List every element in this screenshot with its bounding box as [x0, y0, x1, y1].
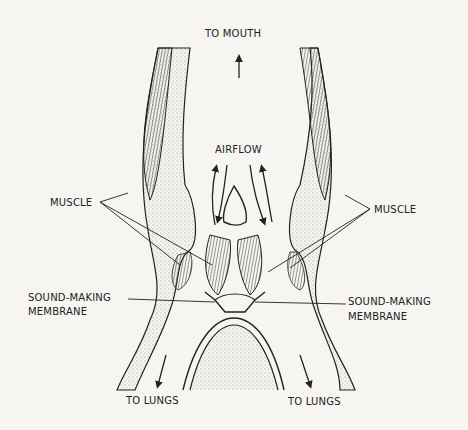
leader-lines	[100, 193, 370, 304]
airflow-down-right	[250, 165, 264, 222]
label-lungs-right: TO LUNGS	[288, 395, 341, 408]
to-lungs-arrow-right	[300, 355, 310, 385]
label-membrane-left-line1: SOUND-MAKING	[28, 291, 111, 304]
label-membrane-right-line2: MEMBRANE	[348, 310, 407, 323]
inner-muscle-right	[238, 235, 262, 295]
label-membrane-left-line2: MEMBRANE	[28, 305, 87, 318]
syrinx-center	[183, 186, 284, 390]
label-airflow: AIRFLOW	[215, 143, 262, 156]
left-trachea-wall	[117, 48, 195, 390]
label-membrane-right-line1: SOUND-MAKING	[348, 295, 431, 308]
airflow-up-right	[262, 168, 272, 222]
inner-muscle-left	[206, 235, 231, 295]
label-lungs-left: TO LUNGS	[126, 394, 179, 407]
to-lungs-arrow-left	[158, 355, 166, 385]
airflow-down-left	[218, 165, 227, 220]
airflow-up-left	[212, 168, 216, 225]
label-muscle-left: MUSCLE	[50, 196, 92, 209]
label-muscle-right: MUSCLE	[374, 203, 416, 216]
right-trachea-wall	[288, 48, 355, 390]
label-to-mouth: TO MOUTH	[205, 27, 261, 40]
